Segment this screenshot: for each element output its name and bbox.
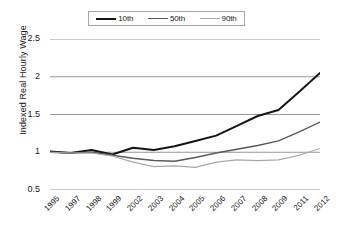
legend-item-90th: 90th <box>200 15 237 23</box>
series-line-50th <box>50 122 320 161</box>
legend-swatch-icon-10th <box>96 18 116 20</box>
series-line-90th <box>50 148 320 167</box>
series-line-10th <box>50 73 320 155</box>
legend-label-90th: 90th <box>222 15 237 23</box>
y-axis-title: Indexed Real Hourly Wage <box>18 0 28 165</box>
legend-label-10th: 10th <box>118 15 133 23</box>
y-tick-label: 0.5 <box>14 184 40 194</box>
y-tick-label: 1 <box>14 146 40 156</box>
chart-legend: 10th 50th 90th <box>88 11 245 26</box>
series-lines <box>50 73 320 167</box>
chart-canvas <box>50 39 320 190</box>
legend-swatch-icon-50th <box>148 18 168 19</box>
legend-label-50th: 50th <box>170 15 185 23</box>
gridlines <box>50 39 320 190</box>
chart-figure: 10th 50th 90th Indexed Real Hourly Wage … <box>0 0 341 234</box>
y-tick-label: 1.5 <box>14 109 40 119</box>
legend-item-10th: 10th <box>96 15 133 23</box>
plot-area <box>50 39 320 190</box>
legend-item-50th: 50th <box>148 15 185 23</box>
y-tick-label: 2.5 <box>14 33 40 43</box>
y-tick-label: 2 <box>14 71 40 81</box>
legend-swatch-icon-90th <box>200 18 220 19</box>
